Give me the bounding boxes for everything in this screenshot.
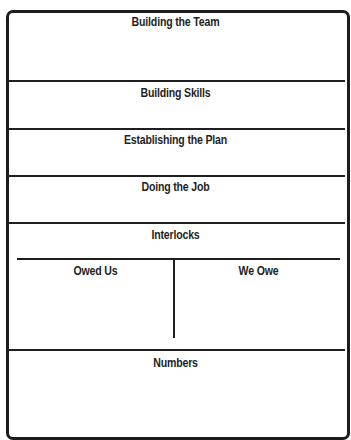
section-divider xyxy=(8,222,345,224)
section-title-building-the-team: Building the Team xyxy=(21,15,330,29)
column-title-owed-us: Owed Us xyxy=(26,264,164,278)
section-title-establishing-the-plan: Establishing the Plan xyxy=(21,133,330,147)
column-title-we-owe: We Owe xyxy=(186,264,331,278)
section-title-numbers: Numbers xyxy=(21,356,330,370)
section-title-doing-the-job: Doing the Job xyxy=(21,180,330,194)
interlocks-column-divider xyxy=(173,259,175,338)
section-title-building-skills: Building Skills xyxy=(21,86,330,100)
section-title-interlocks: Interlocks xyxy=(21,228,330,242)
